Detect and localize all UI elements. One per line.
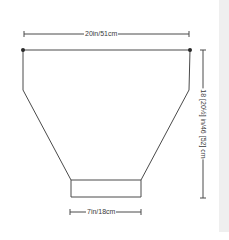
corner-marker-right <box>188 48 192 52</box>
height-label: 18 [20½] in/46 [52] cm <box>199 88 207 159</box>
top-width-label: 20in/51cm <box>84 30 118 38</box>
garment-outline <box>23 50 190 197</box>
corner-marker-left <box>21 48 25 52</box>
bottom-width-label: 7in/18cm <box>86 208 116 216</box>
